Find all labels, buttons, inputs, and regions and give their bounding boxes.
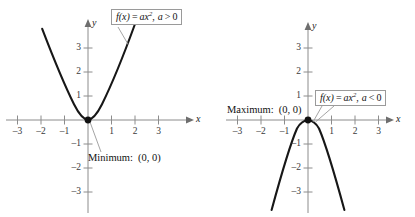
x-axis-label-left: x	[196, 114, 200, 124]
y-ticklabel-neg3-right: –3	[282, 187, 301, 197]
equation-equals-up: =	[132, 11, 138, 22]
y-ticklabel-neg2-right: –2	[282, 163, 301, 173]
maximum-annotation-point: (0, 0)	[279, 104, 302, 115]
x-ticklabel-2-right: 2	[348, 127, 363, 137]
equation-coefficient-up: ax	[140, 11, 149, 22]
equation-comma-down: ,	[356, 92, 359, 103]
x-ticklabel-neg3-left: –3	[9, 127, 26, 137]
y-axis-label-left: y	[92, 18, 96, 28]
maximum-annotation: Maximum:(0, 0)	[227, 104, 301, 115]
x-axis-label-right: x	[396, 114, 400, 124]
maximum-annotation-label: Maximum:	[227, 104, 274, 115]
x-axis-arrowhead-left	[186, 117, 194, 124]
chart-parabola-opens-up: y x –3 –2 –1 1 2 3 3 2 1 –1 –2 –3 f(x)=a…	[0, 0, 210, 217]
equation-condition-op-up: >	[165, 11, 171, 22]
x-ticklabel-3-right: 3	[371, 127, 386, 137]
y-axis-arrowhead-right	[305, 22, 312, 30]
equation-callout-down: f(x)=ax2,a<0	[315, 90, 386, 106]
parabola-figure: y x –3 –2 –1 1 2 3 3 2 1 –1 –2 –3 f(x)=a…	[0, 0, 415, 217]
y-ticklabel-neg1-left: –1	[62, 139, 81, 149]
y-ticklabel-neg1-right: –1	[282, 139, 301, 149]
x-ticklabel-3-left: 3	[151, 127, 166, 137]
x-ticklabel-neg1-left: –1	[56, 127, 73, 137]
y-axis-arrowhead-left	[85, 19, 92, 27]
equation-condition-op-down: <	[369, 92, 375, 103]
equation-equals-down: =	[336, 92, 342, 103]
x-axis-arrowhead-right	[386, 117, 394, 124]
minimum-annotation-point: (0, 0)	[138, 152, 161, 163]
equation-condition-val-down: 0	[376, 92, 381, 103]
x-ticklabel-neg2-left: –2	[33, 127, 50, 137]
x-ticklabel-1-right: 1	[324, 127, 339, 137]
minimum-annotation: Minimum:(0, 0)	[88, 152, 161, 163]
equation-condition-var-up: a	[158, 11, 163, 22]
equation-condition-val-up: 0	[172, 11, 177, 22]
equation-fx-up: f(x)	[116, 11, 130, 22]
x-ticklabel-neg1-right: –1	[276, 127, 293, 137]
chart-left-canvas	[0, 0, 210, 217]
equation-condition-var-down: a	[362, 92, 367, 103]
vertex-point-right	[305, 117, 312, 124]
y-ticklabel-1-right: 1	[284, 91, 301, 101]
y-ticklabel-neg2-left: –2	[62, 163, 81, 173]
equation-callout-up: f(x)=ax2,a>0	[111, 9, 182, 25]
y-ticklabel-2-right: 2	[284, 67, 301, 77]
x-ticklabel-2-left: 2	[128, 127, 143, 137]
x-ticklabel-neg3-right: –3	[229, 127, 246, 137]
vertex-point-left	[85, 117, 92, 124]
chart-parabola-opens-down: y x –3 –2 –1 1 2 3 3 2 1 –1 –2 –3 f(x)=a…	[205, 0, 415, 217]
y-ticklabel-3-left: 3	[64, 43, 81, 53]
y-ticklabel-1-left: 1	[64, 91, 81, 101]
equation-comma-up: ,	[152, 11, 155, 22]
equation-coefficient-down: ax	[344, 92, 353, 103]
x-ticklabel-1-left: 1	[104, 127, 119, 137]
minimum-annotation-label: Minimum:	[88, 152, 133, 163]
y-axis-label-right: y	[312, 21, 316, 31]
y-ticklabel-2-left: 2	[64, 67, 81, 77]
minimum-leader-left	[90, 122, 101, 152]
y-ticklabel-3-right: 3	[284, 43, 301, 53]
y-ticklabel-neg3-left: –3	[62, 187, 81, 197]
callout-leader-left	[118, 27, 129, 45]
x-ticklabel-neg2-right: –2	[253, 127, 270, 137]
equation-fx-down: f(x)	[320, 92, 334, 103]
